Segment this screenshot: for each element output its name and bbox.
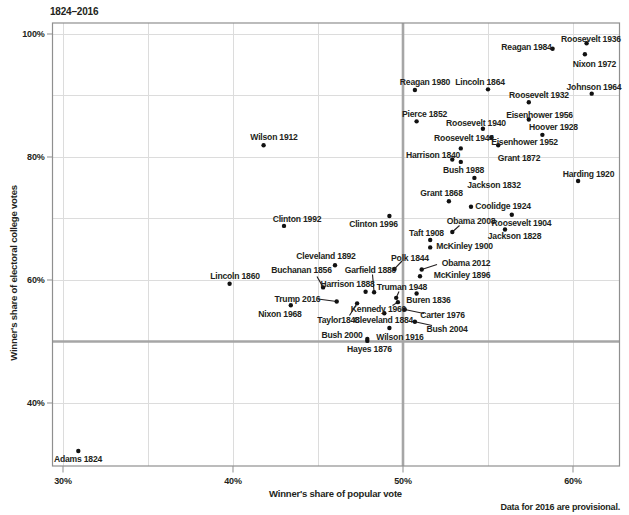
data-point-label: Kennedy 1960 [351, 304, 407, 314]
data-point [590, 91, 594, 95]
data-point-label: Garfield 1880 [345, 265, 397, 275]
data-point-label: Harrison 1888 [320, 279, 375, 289]
x-tick-label: 30% [54, 476, 72, 486]
x-tick-label: 50% [394, 476, 412, 486]
data-point [289, 303, 293, 307]
data-point-label: Harding 1920 [563, 169, 615, 179]
data-point [469, 205, 473, 209]
x-axis-title: Winner's share of popular vote [269, 488, 402, 499]
data-point [486, 87, 490, 91]
data-point-label: Reagan 1980 [400, 77, 451, 87]
data-point-label: Wilson 1916 [376, 332, 424, 342]
data-point-label: Hayes 1876 [347, 344, 392, 354]
data-point [76, 449, 80, 453]
data-point [428, 245, 432, 249]
data-point-label: Polk 1844 [391, 253, 429, 263]
leader-line [318, 299, 337, 302]
data-point-label: Obama 2008 [447, 216, 496, 226]
data-point [333, 263, 337, 267]
data-point-labels: Adams 1824Jackson 1828Jackson 1832Buren … [54, 34, 622, 465]
data-point-label: Adams 1824 [54, 454, 103, 464]
data-point [261, 143, 265, 147]
data-point-label: Eisenhower 1952 [491, 137, 558, 147]
data-point-label: Pierce 1852 [402, 109, 448, 119]
data-point-label: Nixon 1968 [258, 309, 302, 319]
data-points [76, 41, 594, 453]
data-point-label: Nixon 1972 [573, 59, 617, 69]
data-point [447, 199, 451, 203]
data-point-label: Roosevelt 1944 [434, 133, 494, 143]
scatter-plot-canvas: 1824–2016 30%40%50%60%40%60%80%100% Adam… [0, 0, 629, 515]
data-point-label: Roosevelt 1936 [561, 34, 621, 44]
data-point-label: Taft 1908 [409, 228, 444, 238]
data-point [459, 160, 463, 164]
data-point-label: Buren 1836 [406, 295, 451, 305]
x-tick-label: 60% [564, 476, 582, 486]
data-point [413, 88, 417, 92]
data-point-label: McKinley 1896 [434, 270, 491, 280]
data-point-label: Roosevelt 1932 [509, 90, 569, 100]
data-point-label: Wilson 1912 [250, 132, 298, 142]
data-point [510, 213, 514, 217]
data-point-label: Trump 2016 [275, 294, 321, 304]
data-point-label: McKinley 1900 [436, 241, 493, 251]
y-tick-label: 40% [27, 398, 45, 408]
data-point-label: Lincoln 1864 [455, 77, 505, 87]
data-point [394, 296, 398, 300]
data-point [583, 52, 587, 56]
data-point-label: Clinton 1992 [273, 214, 322, 224]
data-point-label: Hoover 1928 [529, 122, 578, 132]
data-point-label: Truman 1948 [377, 282, 428, 292]
data-point-label: Jackson 1832 [467, 180, 521, 190]
data-point-label: Bush 2000 [321, 330, 363, 340]
data-point-label: Eisenhower 1956 [506, 110, 573, 120]
data-point-label: Bush 2004 [426, 324, 468, 334]
data-point [282, 224, 286, 228]
data-point-label: Grant 1872 [498, 153, 541, 163]
data-point [387, 326, 391, 330]
data-point-label: Cleveland 1884 [354, 315, 414, 325]
y-axis-title: Winner's share of electoral college vote… [8, 185, 19, 361]
y-tick-label: 80% [27, 152, 45, 162]
data-point [365, 337, 369, 341]
data-point-label: Lincoln 1860 [210, 271, 260, 281]
data-point [227, 281, 231, 285]
data-point [418, 274, 422, 278]
chart-title: 1824–2016 [50, 6, 99, 17]
data-point [428, 238, 432, 242]
data-point-label: Roosevelt 1940 [446, 118, 506, 128]
data-point-label: Coolidge 1924 [475, 201, 531, 211]
data-point-label: Buchanan 1856 [271, 265, 332, 275]
data-point [335, 299, 339, 303]
data-point [420, 267, 424, 271]
data-point-label: Grant 1868 [420, 188, 463, 198]
data-point-label: Obama 2012 [442, 258, 491, 268]
data-point [450, 230, 454, 234]
data-point [372, 290, 376, 294]
data-point-label: Roosevelt 1904 [492, 218, 552, 228]
data-point-label: Jackson 1828 [488, 231, 542, 241]
data-point [413, 320, 417, 324]
data-point [576, 179, 580, 183]
data-point-label: Cleveland 1892 [296, 251, 356, 261]
data-point-label: Reagan 1984 [501, 42, 552, 52]
election-scatter-chart: 1824–2016 30%40%50%60%40%60%80%100% Adam… [0, 0, 629, 515]
data-point-label: Harrison 1840 [406, 150, 461, 160]
data-point-label: Bush 1988 [443, 165, 485, 175]
data-point [363, 289, 367, 293]
data-point [527, 100, 531, 104]
x-tick-label: 40% [224, 476, 242, 486]
data-point-label: Carter 1976 [420, 310, 465, 320]
y-tick-label: 60% [27, 275, 45, 285]
footnote: Data for 2016 are provisional. [500, 502, 620, 512]
y-tick-label: 100% [22, 29, 44, 39]
data-point-label: Clinton 1996 [349, 219, 398, 229]
data-point-label: Johnson 1964 [567, 82, 622, 92]
data-point [414, 119, 418, 123]
